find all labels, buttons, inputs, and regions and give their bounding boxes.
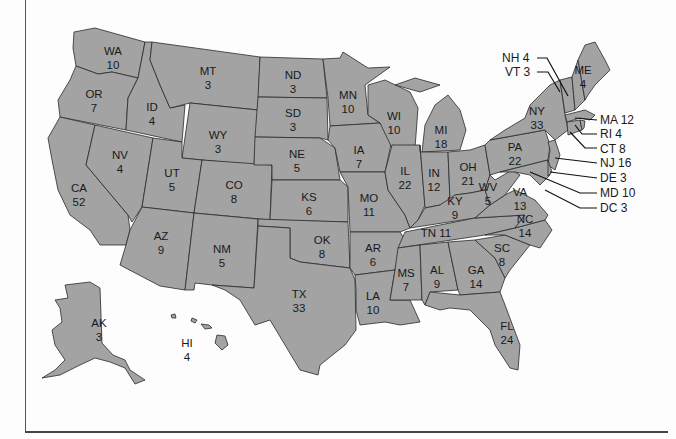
label-la: LA10 [366, 289, 380, 317]
label-pa: PA22 [508, 140, 523, 168]
label-ga: GA14 [468, 263, 485, 291]
state-ct [567, 120, 582, 135]
callout-ma: MA 12 [600, 113, 634, 127]
label-ca: CA52 [71, 181, 87, 209]
label-or: OR7 [85, 87, 102, 115]
label-az: AZ9 [154, 229, 169, 257]
label-ia: IA7 [354, 143, 365, 171]
callout-md: MD 10 [600, 186, 635, 200]
label-nc: NC14 [517, 212, 534, 240]
label-wv: WV5 [479, 180, 498, 208]
label-tx: TX33 [292, 287, 307, 315]
label-mn: MN10 [339, 88, 357, 116]
hi-islands [201, 324, 212, 329]
label-al: AL9 [430, 263, 444, 291]
callout-nh: NH 4 [502, 51, 529, 65]
label-ok: OK8 [314, 233, 331, 261]
callout-nj: NJ 16 [600, 156, 631, 170]
label-mt: MT3 [200, 64, 217, 92]
label-mo: MO11 [360, 191, 379, 219]
callout-dc: DC 3 [600, 201, 627, 215]
label-hi: HI4 [181, 336, 193, 364]
label-mi: MI18 [435, 123, 448, 151]
label-nv: NV4 [112, 148, 128, 176]
label-fl: FL24 [500, 319, 513, 347]
label-wy: WY3 [209, 128, 228, 156]
callout-ri: RI 4 [600, 127, 622, 141]
label-ar: AR6 [365, 241, 381, 269]
callout-ct: CT 8 [600, 142, 626, 156]
label-ny: NY33 [529, 104, 545, 132]
callout-de: DE 3 [600, 171, 627, 185]
label-nd: ND3 [285, 68, 302, 96]
callout-vt: VT 3 [505, 65, 530, 79]
label-ne: NE5 [289, 147, 305, 175]
label-ut: UT5 [164, 166, 179, 194]
label-oh: OH21 [459, 160, 476, 188]
label-ky: KY9 [447, 194, 462, 222]
label-il: IL22 [399, 164, 412, 192]
label-va: VA13 [513, 185, 528, 213]
label-wi: WI10 [387, 109, 401, 137]
label-wa: WA10 [104, 44, 122, 72]
label-ks: KS6 [301, 190, 316, 218]
label-ak: AK3 [91, 316, 106, 344]
label-me: ME4 [574, 63, 591, 91]
label-nm: NM5 [213, 242, 231, 270]
label-tn: TN 11 [421, 226, 452, 240]
label-id: ID4 [146, 100, 158, 128]
label-ms: MS7 [397, 266, 414, 294]
label-in: IN12 [428, 166, 441, 194]
label-co: CO8 [225, 178, 242, 206]
label-sc: SC8 [494, 241, 510, 269]
label-sd: SD3 [285, 106, 301, 134]
state-hi [171, 314, 228, 350]
